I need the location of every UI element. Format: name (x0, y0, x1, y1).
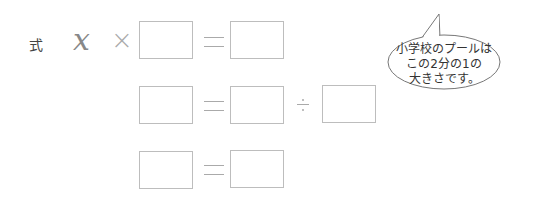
equals-sign (204, 37, 224, 47)
answer-box-r1-2[interactable] (230, 21, 284, 59)
answer-box-r2-1[interactable] (139, 86, 193, 124)
bubble-line-3: 大きさです。 (388, 72, 500, 87)
equals-sign (204, 101, 224, 111)
answer-box-r3-1[interactable] (139, 151, 193, 189)
answer-box-r2-2[interactable] (230, 86, 284, 124)
times-sign: × (111, 27, 133, 53)
divide-sign (297, 99, 309, 111)
answer-box-r1-1[interactable] (139, 21, 193, 59)
answer-box-r2-3[interactable] (322, 85, 376, 123)
bubble-text: 小学校のプールは この2分の1の 大きさです。 (388, 42, 500, 87)
formula-label: 式 (29, 34, 43, 54)
variable-x: x (73, 25, 90, 55)
answer-box-r3-2[interactable] (230, 150, 284, 188)
bubble-line-2: この2分の1の (388, 57, 500, 72)
equals-sign (204, 165, 224, 175)
bubble-line-1: 小学校のプールは (388, 42, 500, 57)
